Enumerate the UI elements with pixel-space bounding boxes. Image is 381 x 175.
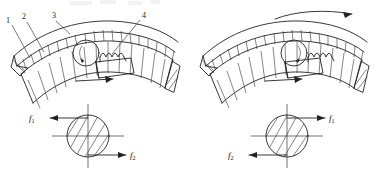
clutch-figure: 1 2 3 4 f1 xyxy=(0,0,381,175)
callout-4-label: 4 xyxy=(142,11,146,20)
canvas-background xyxy=(0,0,381,175)
callout-1-label: 1 xyxy=(6,16,10,25)
callout-2-label: 2 xyxy=(22,12,26,21)
diagram-canvas: 1 2 3 4 f1 xyxy=(0,0,381,175)
callout-3-label: 3 xyxy=(52,11,56,20)
